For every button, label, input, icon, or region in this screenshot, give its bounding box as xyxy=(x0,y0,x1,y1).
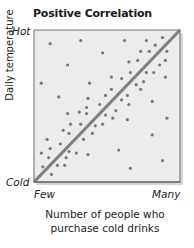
data-point xyxy=(40,82,43,85)
data-point xyxy=(158,63,161,66)
data-point xyxy=(152,71,155,74)
data-point xyxy=(139,50,142,53)
data-point xyxy=(65,156,68,159)
data-point xyxy=(59,142,62,145)
data-point xyxy=(47,156,50,159)
data-point xyxy=(126,118,129,121)
data-point xyxy=(127,103,130,106)
data-point xyxy=(161,159,164,162)
data-point xyxy=(49,42,52,45)
data-point xyxy=(151,100,154,103)
y-tick-cold: Cold xyxy=(6,176,29,188)
data-point xyxy=(91,132,94,135)
y-axis-label: Daily temperature xyxy=(4,5,15,105)
data-point xyxy=(69,123,72,126)
data-point xyxy=(85,112,88,115)
data-point xyxy=(110,88,113,91)
data-point xyxy=(165,117,168,120)
data-point xyxy=(126,94,129,97)
data-point xyxy=(110,76,113,79)
data-point xyxy=(50,173,53,176)
data-point xyxy=(154,44,157,47)
data-point xyxy=(120,77,123,80)
data-point xyxy=(136,59,139,62)
data-point xyxy=(145,39,148,42)
data-point xyxy=(104,114,107,117)
data-point xyxy=(98,103,101,106)
data-point xyxy=(101,51,104,54)
data-point xyxy=(85,106,88,109)
data-point xyxy=(41,165,44,168)
data-point xyxy=(75,152,78,155)
data-point xyxy=(111,117,114,120)
data-point xyxy=(114,109,117,112)
data-point xyxy=(56,164,59,167)
data-point xyxy=(67,150,70,153)
data-point xyxy=(78,111,81,114)
data-point xyxy=(40,152,43,155)
data-point xyxy=(117,149,120,152)
data-point xyxy=(161,36,164,39)
data-point xyxy=(57,95,60,98)
data-point xyxy=(104,94,107,97)
data-point xyxy=(145,71,148,74)
data-point xyxy=(148,50,151,53)
data-point xyxy=(94,124,97,127)
data-point xyxy=(67,132,70,135)
data-point xyxy=(63,164,66,167)
data-point xyxy=(164,59,167,62)
data-point xyxy=(66,63,69,66)
x-tick-many: Many xyxy=(152,188,180,200)
data-point xyxy=(120,98,123,101)
data-point xyxy=(88,82,91,85)
data-point xyxy=(142,80,145,83)
data-point xyxy=(135,83,138,86)
data-point xyxy=(79,123,82,126)
data-point xyxy=(66,112,69,115)
data-point xyxy=(82,138,85,141)
data-point xyxy=(129,71,132,74)
data-point xyxy=(86,97,89,100)
data-point xyxy=(46,138,49,141)
data-point xyxy=(151,133,154,136)
data-point xyxy=(79,39,82,42)
x-axis-label: Number of people who purchase cold drink… xyxy=(30,207,180,235)
data-point xyxy=(129,167,132,170)
data-point xyxy=(86,153,89,156)
data-point xyxy=(101,123,104,126)
data-point xyxy=(62,129,65,132)
data-point xyxy=(127,60,130,63)
x-tick-few: Few xyxy=(34,188,55,200)
data-point xyxy=(139,88,142,91)
data-point xyxy=(165,50,168,53)
data-point xyxy=(123,39,126,42)
data-point xyxy=(164,76,167,79)
data-point xyxy=(49,147,52,150)
